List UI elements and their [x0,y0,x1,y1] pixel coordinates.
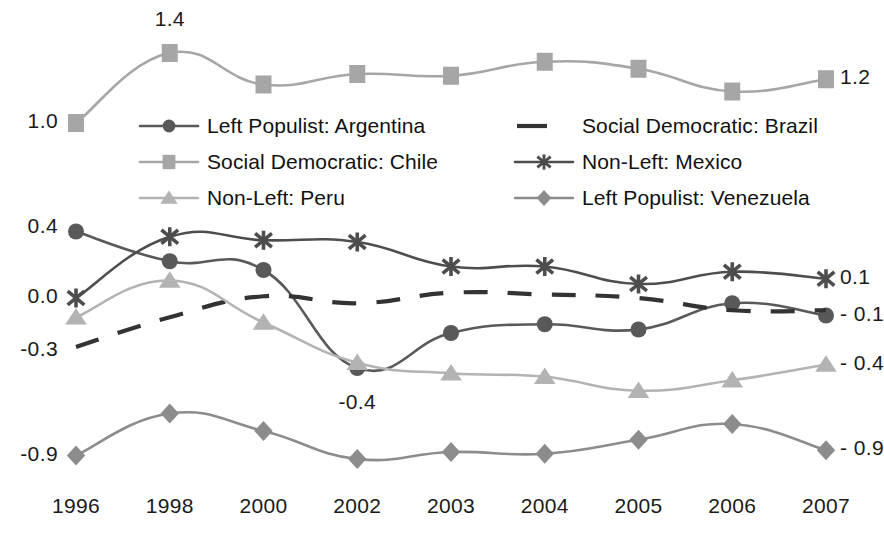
x-axis-tick-1998: 1998 [125,494,215,518]
data-point-label: 1.4 [130,7,210,31]
x-axis-tick-2007: 2007 [781,494,871,518]
legend-label: Non-Left: Mexico [582,150,742,174]
legend-item[interactable]: Non-Left: Mexico [513,150,823,174]
y-axis-label-right: 0.1 [840,265,870,289]
x-axis-tick-2002: 2002 [312,494,402,518]
y-axis-label-right: - 0.1 [840,302,884,326]
x-axis-tick-1996: 1996 [31,494,121,518]
legend-item[interactable]: Left Populist: Argentina [138,114,513,138]
x-axis-tick-2000: 2000 [219,494,309,518]
x-axis-tick-2003: 2003 [406,494,496,518]
series-non-left-mexico [68,227,835,307]
legend-label: Social Democratic: Brazil [582,114,818,138]
chart-legend: Left Populist: ArgentinaSocial Democrati… [138,108,738,216]
series-left-populist-argentina [68,224,834,377]
series-left-populist-venezuela [67,404,835,470]
legend-item[interactable]: Left Populist: Venezuela [513,186,823,210]
y-axis-label-left: -0.9 [20,442,58,466]
legend-marker-asterisk-icon [513,152,575,172]
legend-item[interactable]: Social Democratic: Brazil [513,114,823,138]
data-point-label: -0.4 [317,390,397,414]
x-axis-tick-2005: 2005 [594,494,684,518]
legend-marker-diamond-icon [513,188,575,208]
y-axis-label-right: - 0.9 [840,436,884,460]
legend-label: Left Populist: Argentina [207,114,425,138]
x-axis-tick-2006: 2006 [687,494,777,518]
y-axis-label-left: 0.4 [28,214,58,238]
legend-label: Social Democratic: Chile [207,150,438,174]
y-axis-label-right: - 0.4 [840,351,884,375]
legend-item[interactable]: Social Democratic: Chile [138,150,513,174]
y-axis-label-left: 0.0 [28,284,58,308]
legend-marker-square-icon [138,152,200,172]
x-axis-tick-2004: 2004 [500,494,590,518]
legend-marker-circle-icon [138,116,200,136]
legend-label: Left Populist: Venezuela [582,186,810,210]
y-axis-label-right: 1.2 [840,65,870,89]
legend-marker-dash-icon [513,116,575,136]
legend-label: Non-Left: Peru [207,186,345,210]
series-line [76,232,826,371]
y-axis-label-left: 1.0 [28,109,58,133]
legend-marker-triangle-icon [138,188,200,208]
y-axis-label-left: -0.3 [20,337,58,361]
legend-item[interactable]: Non-Left: Peru [138,186,513,210]
